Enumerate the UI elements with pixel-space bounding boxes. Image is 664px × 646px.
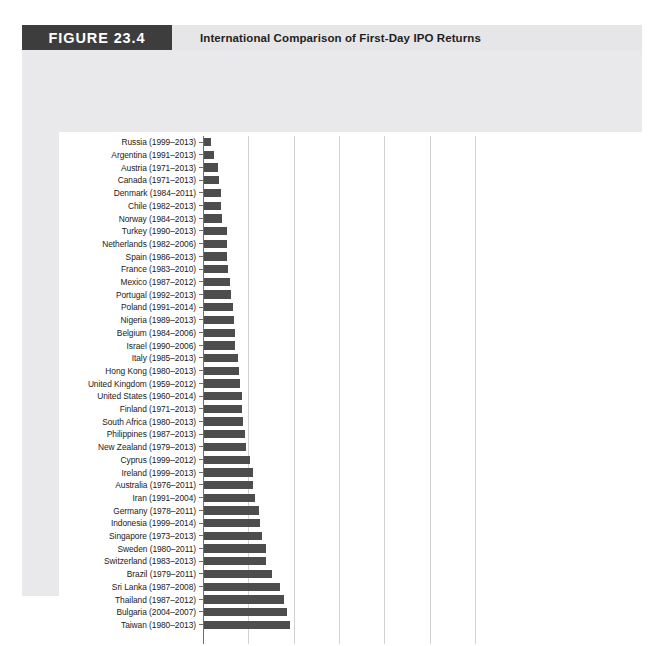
axis-tick	[199, 586, 203, 587]
chart-row: France (1983–2010)	[59, 263, 660, 276]
chart-row: Philippines (1987–2013)	[59, 428, 660, 441]
chart-row: Poland (1991–2014)	[59, 301, 660, 314]
axis-tick	[199, 497, 203, 498]
axis-tick	[199, 332, 203, 333]
figure-number-block: FIGURE 23.4	[22, 25, 172, 50]
chart-row: Russia (1999–2013)	[59, 136, 660, 149]
category-label: Brazil (1979–2011)	[127, 568, 196, 581]
bar	[204, 557, 266, 565]
axis-tick	[199, 243, 203, 244]
category-label: Norway (1984–2013)	[119, 212, 196, 225]
bar-chart: Russia (1999–2013)Argentina (1991–2013)A…	[59, 132, 660, 646]
category-label: Cyprus (1999–2012)	[121, 454, 196, 467]
axis-tick	[199, 370, 203, 371]
category-label: Bulgaria (2004–2007)	[116, 606, 196, 619]
axis-tick	[199, 459, 203, 460]
bar	[204, 405, 242, 413]
axis-tick	[199, 319, 203, 320]
category-label: Taiwan (1980–2013)	[121, 619, 196, 632]
bar	[204, 532, 262, 540]
category-label: New Zealand (1979–2013)	[98, 441, 196, 454]
chart-row: United States (1960–2014)	[59, 390, 660, 403]
chart-row: Bulgaria (2004–2007)	[59, 606, 660, 619]
category-label: France (1983–2010)	[121, 263, 196, 276]
category-label: Switzerland (1983–2013)	[104, 555, 196, 568]
category-label: Denmark (1984–2011)	[114, 187, 196, 200]
axis-tick	[199, 294, 203, 295]
axis-tick	[199, 357, 203, 358]
axis-tick	[199, 523, 203, 524]
bar	[204, 278, 230, 286]
chart-row: Austria (1971–2013)	[59, 161, 660, 174]
bar	[204, 341, 235, 349]
bar	[204, 519, 260, 527]
chart-row: New Zealand (1979–2013)	[59, 441, 660, 454]
bar	[204, 443, 246, 451]
chart-row: Argentina (1991–2013)	[59, 149, 660, 162]
bar	[204, 392, 242, 400]
chart-row: Netherlands (1982–2006)	[59, 238, 660, 251]
bar	[204, 608, 287, 616]
bar	[204, 163, 218, 171]
axis-tick	[199, 510, 203, 511]
figure-frame: Russia (1999–2013)Argentina (1991–2013)A…	[22, 50, 642, 596]
axis-tick	[199, 561, 203, 562]
chart-row: Ireland (1999–2013)	[59, 466, 660, 479]
category-label: Canada (1971–2013)	[118, 174, 196, 187]
chart-row: Portugal (1992–2013)	[59, 288, 660, 301]
category-label: United States (1960–2014)	[97, 390, 196, 403]
category-label: Netherlands (1982–2006)	[102, 238, 196, 251]
axis-tick	[199, 307, 203, 308]
category-label: Nigeria (1989–2013)	[121, 314, 196, 327]
bar	[204, 354, 238, 362]
axis-tick	[199, 205, 203, 206]
bar	[204, 290, 231, 298]
bar	[204, 202, 221, 210]
bar	[204, 265, 228, 273]
bar	[204, 189, 221, 197]
figure-header-band: FIGURE 23.4 International Comparison of …	[22, 25, 642, 50]
chart-row: Israel (1990–2006)	[59, 339, 660, 352]
chart-row: Canada (1971–2013)	[59, 174, 660, 187]
bar	[204, 456, 250, 464]
bar	[204, 468, 253, 476]
category-label: Spain (1986–2013)	[126, 250, 196, 263]
category-label: Sweden (1980–2011)	[117, 542, 196, 555]
chart-row: Denmark (1984–2011)	[59, 187, 660, 200]
chart-row: United Kingdom (1959–2012)	[59, 377, 660, 390]
chart-row: South Africa (1980–2013)	[59, 415, 660, 428]
axis-tick	[199, 624, 203, 625]
bar	[204, 544, 266, 552]
chart-row: Switzerland (1983–2013)	[59, 555, 660, 568]
bar	[204, 214, 222, 222]
chart-row: Indonesia (1999–2014)	[59, 517, 660, 530]
bar	[204, 570, 272, 578]
axis-tick	[199, 154, 203, 155]
bar	[204, 379, 240, 387]
axis-tick	[199, 396, 203, 397]
category-label: Singapore (1973–2013)	[109, 530, 196, 543]
category-label: United Kingdom (1959–2012)	[88, 377, 196, 390]
axis-tick	[199, 472, 203, 473]
axis-tick	[199, 180, 203, 181]
category-label: Philippines (1987–2013)	[107, 428, 196, 441]
bar	[204, 303, 233, 311]
category-label: Poland (1991–2014)	[121, 301, 196, 314]
category-label: Iran (1991–2004)	[133, 492, 196, 505]
axis-tick	[199, 611, 203, 612]
figure-title: International Comparison of First-Day IP…	[200, 25, 481, 50]
axis-tick	[199, 230, 203, 231]
bar-rows: Russia (1999–2013)Argentina (1991–2013)A…	[59, 132, 660, 646]
axis-tick	[199, 192, 203, 193]
bar	[204, 176, 219, 184]
category-label: South Africa (1980–2013)	[102, 415, 196, 428]
bar	[204, 506, 259, 514]
category-label: Hong Kong (1980–2013)	[105, 365, 196, 378]
category-label: Ireland (1999–2013)	[122, 466, 196, 479]
bar	[204, 595, 284, 603]
bar	[204, 583, 280, 591]
chart-row: Thailand (1987–2012)	[59, 593, 660, 606]
category-label: Russia (1999–2013)	[121, 136, 196, 149]
category-label: Indonesia (1999–2014)	[111, 517, 196, 530]
axis-tick	[199, 383, 203, 384]
